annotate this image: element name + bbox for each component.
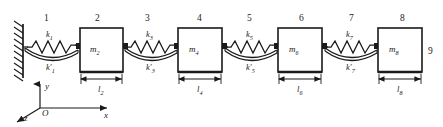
axis-label-z: z: [24, 113, 28, 123]
schematic-svg: [0, 0, 443, 127]
axis-label-x: x: [104, 110, 108, 120]
spring-assembly-5: [222, 41, 279, 61]
spring-assembly-1: [23, 41, 81, 61]
spring-label-k7: k7: [346, 29, 353, 41]
mass-label-2: m2: [90, 44, 100, 56]
spring-label-k5-prime: k′5: [246, 62, 255, 74]
node-number-8: 8: [400, 13, 405, 23]
spring-label-k7-prime: k′7: [346, 62, 355, 74]
node-number-4: 4: [197, 13, 202, 23]
mass-label-8: m8: [389, 44, 399, 56]
mass-2: [80, 28, 123, 84]
spring-label-k5: k5: [246, 29, 253, 41]
spring-label-k3-prime: k′3: [146, 62, 155, 74]
mass-6: [278, 28, 322, 84]
spring-assembly-7: [322, 41, 379, 61]
node-number-7: 7: [349, 13, 354, 23]
coordinate-axes: [17, 84, 107, 122]
mass-4: [178, 28, 222, 84]
node-number-3: 3: [145, 13, 150, 23]
axis-label-y: y: [45, 81, 49, 91]
length-label-2: l2: [98, 84, 103, 96]
node-number-2: 2: [95, 13, 100, 23]
length-label-4: l4: [197, 84, 202, 96]
spring-label-k3: k3: [146, 29, 153, 41]
axis-origin-label: O: [42, 108, 49, 118]
node-number-1: 1: [44, 13, 49, 23]
fixed-support: [14, 21, 23, 81]
node-number-6: 6: [299, 13, 304, 23]
length-label-6: l6: [297, 84, 302, 96]
node-number-9: 9: [428, 46, 433, 56]
mass-label-4: m4: [189, 44, 199, 56]
spring-label-k1: k1: [46, 29, 53, 41]
spring-assembly-3: [123, 41, 179, 61]
spring-label-k1-prime: k′1: [46, 62, 55, 74]
mass-8: [378, 28, 422, 84]
node-number-5: 5: [247, 13, 252, 23]
figure-canvas: 1 2 3 4 5 6 7 8 9 m2 m4 m6 m8 l2 l4 l6 l…: [0, 0, 443, 127]
length-label-8: l8: [397, 84, 402, 96]
mass-label-6: m6: [289, 44, 299, 56]
